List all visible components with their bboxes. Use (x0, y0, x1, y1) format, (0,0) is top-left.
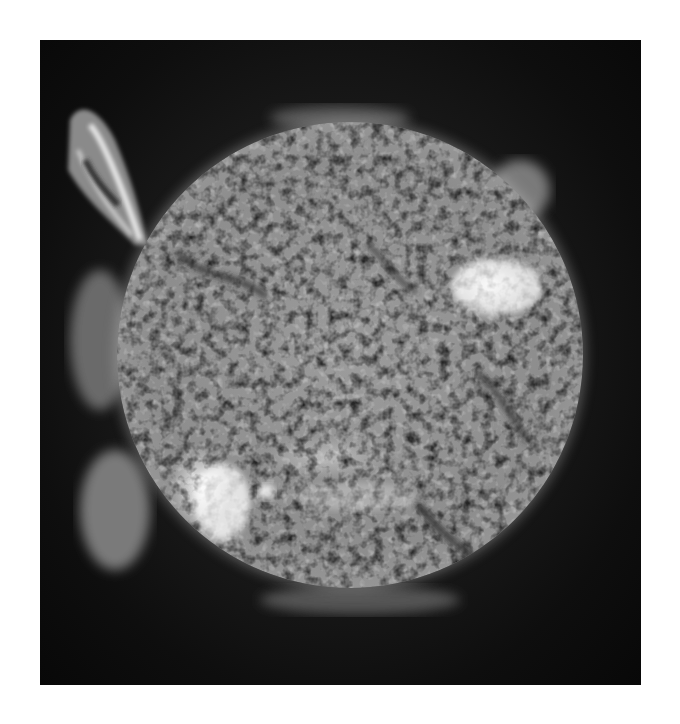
solar-surface-texture (117, 122, 583, 588)
sun-photograph (40, 40, 641, 685)
solar-disk (117, 122, 583, 588)
